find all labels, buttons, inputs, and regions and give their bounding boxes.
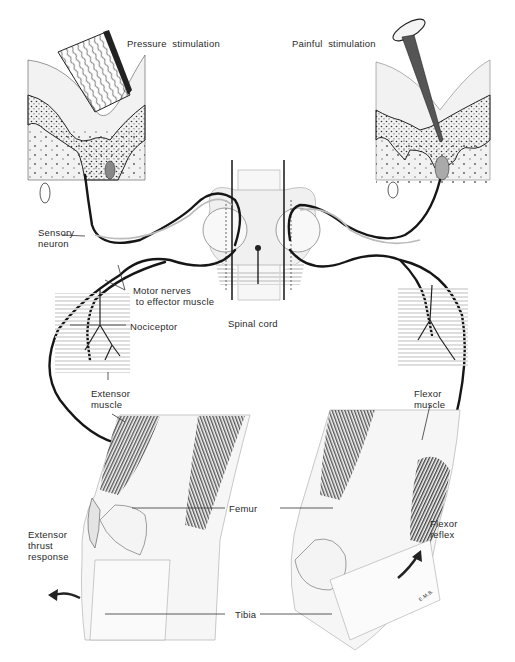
central-canal (255, 245, 261, 251)
receptor-capsule-icon (40, 183, 50, 203)
label-femur: Femur (229, 503, 257, 514)
label-pressure-stimulation: Pressure stimulation (127, 38, 220, 49)
label-painful-stimulation: Painful stimulation (292, 38, 376, 49)
receptor-capsule-icon (435, 156, 449, 180)
right-muscle-tissue (398, 285, 468, 368)
label-spinal-cord: Spinal cord (228, 318, 278, 329)
label-extensor-thrust-response: Extensor thrust response (28, 529, 69, 562)
label-motor-nerves: Motor nerves to effector muscle (133, 285, 214, 307)
label-flexor-muscle: Flexor muscle (414, 388, 445, 410)
label-sensory-neuron: Sensory neuron (38, 227, 74, 249)
label-nociceptor: Nociceptor (130, 321, 177, 332)
label-extensor-muscle: Extensor muscle (91, 388, 130, 410)
reflex-diagram (0, 0, 515, 662)
left-leg-extended (48, 415, 250, 640)
spinal-cord (203, 160, 320, 300)
left-tibia (90, 560, 170, 640)
label-tibia: Tibia (235, 609, 256, 620)
label-flexor-reflex: Flexor reflex (430, 518, 458, 540)
receptor-capsule-icon (105, 161, 115, 179)
right-skin-section (376, 60, 490, 198)
left-muscle-tissue (55, 290, 130, 373)
